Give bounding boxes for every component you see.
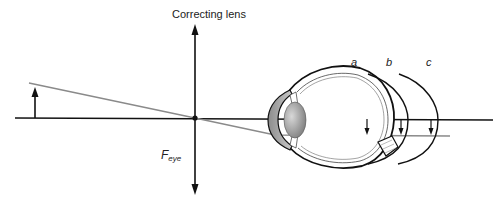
eye-cross-section — [268, 66, 398, 168]
focal-point-subscript: eye — [168, 154, 181, 163]
image-arrow-b-icon — [399, 120, 404, 135]
retina-label-c: c — [426, 56, 432, 68]
retina-label-a: a — [351, 56, 357, 68]
correcting-lens-icon — [192, 24, 199, 195]
optical-axis — [15, 118, 493, 120]
image-arrow-c-icon — [429, 120, 434, 135]
focal-point-label: Feye — [161, 148, 181, 163]
correcting-lens-label: Correcting lens — [172, 8, 246, 20]
retina-label-b: b — [386, 56, 392, 68]
optics-diagram — [0, 0, 504, 201]
object-arrow-icon — [32, 87, 39, 118]
eye-lens — [284, 102, 306, 138]
